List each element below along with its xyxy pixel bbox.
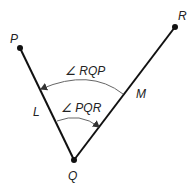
label-q: Q: [68, 169, 77, 183]
label-m: M: [136, 87, 146, 101]
label-angle-pqr: ∠ PQR: [61, 101, 102, 115]
label-angle-rqp: ∠ RQP: [65, 64, 105, 78]
arc-pqr: [57, 118, 99, 127]
angle-diagram: P R Q L M ∠ RQP ∠ PQR: [0, 0, 193, 189]
arc-rqp: [41, 80, 123, 94]
point-r: [172, 24, 178, 30]
segment-qr: [74, 27, 175, 160]
label-p: P: [10, 32, 18, 46]
label-l: L: [33, 105, 40, 119]
point-q: [71, 157, 77, 163]
label-r: R: [178, 9, 187, 23]
